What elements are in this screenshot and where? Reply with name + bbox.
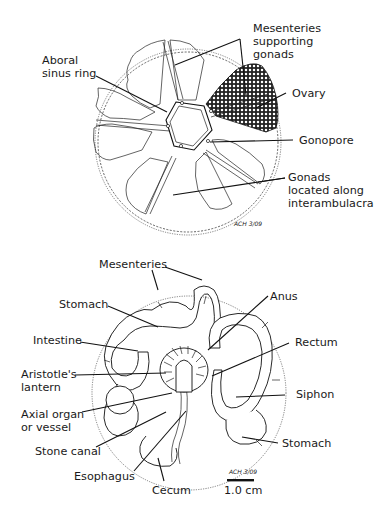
label-cecum: Cecum	[152, 484, 191, 497]
sea-urchin-anatomy-figure: Mesenteries supporting gonads Aboral sin…	[0, 0, 383, 516]
label-gonopore: Gonopore	[299, 134, 354, 147]
label-mesenteries-supporting-gonads-3: gonads	[253, 48, 294, 61]
label-intestine: Intestine	[33, 334, 82, 347]
top-aboral-diagram: Mesenteries supporting gonads Aboral sin…	[42, 22, 374, 235]
aboral-sinus-ring	[166, 102, 212, 150]
label-gonads-1: Gonads	[288, 171, 331, 184]
label-aristotles-lantern-1: Aristotle's	[21, 368, 77, 381]
artist-signature-bottom: ACH 3/09	[228, 468, 257, 475]
label-aristotles-lantern-2: lantern	[21, 381, 61, 394]
label-mesenteries-supporting-gonads-1: Mesenteries	[253, 22, 321, 35]
scale-bar	[227, 479, 254, 481]
label-anus: Anus	[270, 290, 298, 303]
label-mesenteries: Mesenteries	[99, 258, 167, 271]
label-aboral-sinus-ring-2: sinus ring	[42, 67, 96, 80]
label-axial-organ-1: Axial organ	[21, 408, 84, 421]
artist-signature-top: ACH 3/09	[233, 220, 262, 227]
bottom-oral-diagram: Mesenteries Stomach Intestine Aristotle'…	[21, 258, 338, 497]
label-rectum: Rectum	[295, 336, 338, 349]
gonopores	[166, 101, 212, 147]
label-mesenteries-supporting-gonads-2: supporting	[253, 35, 313, 48]
label-stone-canal: Stone canal	[35, 445, 101, 458]
label-gonads-3: interambulacra	[288, 197, 374, 210]
label-gonads-2: located along	[288, 184, 364, 197]
label-esophagus: Esophagus	[74, 470, 135, 483]
aristotles-lantern	[160, 346, 208, 392]
scale-bar-label: 1.0 cm	[224, 484, 262, 497]
label-ovary: Ovary	[292, 87, 326, 100]
label-stomach-top: Stomach	[59, 298, 108, 311]
label-axial-organ-2: or vessel	[21, 421, 71, 434]
ovary	[206, 64, 278, 132]
label-siphon: Siphon	[296, 388, 334, 401]
label-aboral-sinus-ring-1: Aboral	[42, 54, 78, 67]
label-stomach-bottom: Stomach	[282, 437, 331, 450]
